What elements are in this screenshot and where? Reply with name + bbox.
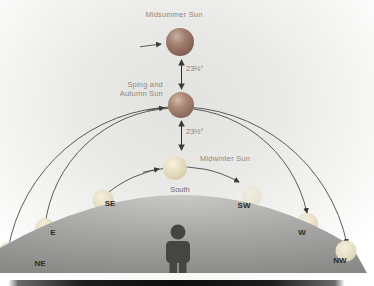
equinox-sun-label-line1: Sping and: [120, 80, 163, 89]
midwinter-sun-label: Midwinter Sun: [200, 154, 250, 163]
midsummer-sun: [166, 28, 194, 56]
equinox-sun: [168, 92, 194, 118]
compass-label-w: W: [298, 228, 306, 237]
compass-label-ne: NE: [34, 259, 45, 268]
obliquity-angle-lower: 23½°: [186, 127, 204, 136]
midwinter-sun: [163, 156, 187, 180]
diagram-canvas: [0, 0, 374, 286]
page-edge-bar: [8, 280, 345, 286]
midsummer-rise-arrow: [140, 44, 161, 47]
equinox-sun-label-line2: Autumn Sun: [120, 89, 163, 98]
compass-label-nw: NW: [333, 256, 346, 265]
equinox-sun-label: Sping and Autumn Sun: [120, 80, 163, 98]
compass-label-sw: SW: [238, 201, 251, 210]
midsummer-sun-label: Midsummer Sun: [145, 10, 202, 19]
sun-path-diagram: Midsummer Sun Sping and Autumn Sun 23½° …: [0, 0, 374, 286]
compass-label-se: SE: [105, 199, 116, 208]
compass-label-e: E: [50, 228, 55, 237]
obliquity-angle-upper: 23½°: [186, 64, 204, 73]
midwinter-rise-arrow: [143, 169, 159, 172]
south-label: South: [170, 185, 190, 194]
